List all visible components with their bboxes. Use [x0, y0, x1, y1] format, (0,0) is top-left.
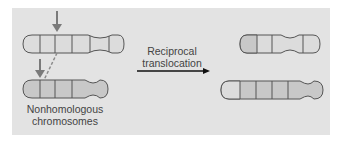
caption-line1: Nonhomologous	[20, 103, 110, 115]
chromosome-b-after	[221, 81, 323, 99]
process-label-line2: translocation	[132, 57, 212, 69]
chromosome-a-after	[240, 35, 320, 53]
process-label: Reciprocal translocation	[132, 45, 212, 69]
caption-line2: chromosomes	[20, 115, 110, 127]
caption: Nonhomologous chromosomes	[20, 103, 110, 127]
process-label-line1: Reciprocal	[132, 45, 212, 57]
break-arrow-top-icon	[52, 11, 62, 32]
chromosome-a-before	[23, 35, 124, 53]
break-arrow-bottom-icon	[35, 59, 45, 78]
chromosome-b-before	[23, 80, 108, 98]
break-connector	[44, 53, 57, 80]
